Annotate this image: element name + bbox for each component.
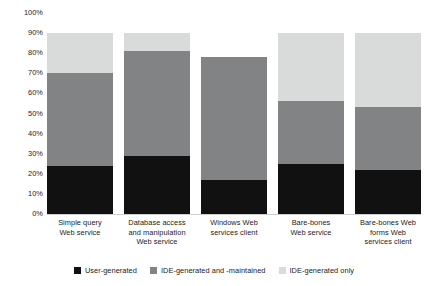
y-axis-tick: 60% bbox=[28, 89, 43, 97]
legend-swatch-icon bbox=[150, 267, 157, 274]
bar-segment-ide-generated-and-maintained bbox=[124, 51, 190, 156]
x-axis-label-line: Web service bbox=[42, 228, 118, 238]
x-axis-label: Windows Web services client bbox=[196, 218, 272, 262]
y-axis-tick: 70% bbox=[28, 69, 43, 77]
x-axis-label-line: Web service bbox=[273, 228, 349, 238]
x-axis-label-line: Bare-bones bbox=[273, 218, 349, 228]
bar-segment-ide-generated-only bbox=[278, 33, 344, 101]
x-axis-label-line: Bare-bones Web bbox=[350, 218, 426, 228]
legend-item-ide-generated-only: IDE-generated only bbox=[279, 266, 355, 275]
legend-label: IDE-generated only bbox=[290, 266, 355, 275]
x-axis-label-line: Windows Web bbox=[196, 218, 272, 228]
bar-segment-ide-generated-only bbox=[47, 33, 113, 73]
bar-group bbox=[47, 13, 421, 214]
y-axis-tick: 90% bbox=[28, 29, 43, 37]
x-axis-label-line: services client bbox=[350, 237, 426, 247]
x-axis-label: Simple query Web service bbox=[42, 218, 118, 262]
x-axis-line bbox=[47, 214, 421, 215]
y-axis-tick: 0% bbox=[32, 210, 43, 218]
y-axis-tick: 10% bbox=[28, 190, 43, 198]
bar-segment-user-generated bbox=[47, 166, 113, 214]
bar-segment-ide-generated-and-maintained bbox=[47, 73, 113, 165]
x-axis-label-line: Simple query bbox=[42, 218, 118, 228]
bar-segment-ide-generated-and-maintained bbox=[278, 101, 344, 163]
y-axis-tick: 80% bbox=[28, 49, 43, 57]
bar-bare-bones-web-forms-web-services-client bbox=[355, 13, 421, 214]
x-axis-label-line: forms Web bbox=[350, 228, 426, 238]
y-axis-tick: 100% bbox=[24, 9, 43, 17]
legend-swatch-icon bbox=[74, 267, 81, 274]
stacked-bar-chart: 100% 90% 80% 70% 60% 50% 40% 30% 20% 10%… bbox=[0, 0, 428, 286]
x-axis-label-line: services client bbox=[196, 228, 272, 238]
bar-segment-user-generated bbox=[278, 164, 344, 214]
y-axis: 100% 90% 80% 70% 60% 50% 40% 30% 20% 10%… bbox=[0, 0, 47, 214]
y-axis-tick: 20% bbox=[28, 170, 43, 178]
chart-legend: User-generated IDE-generated and -mainta… bbox=[0, 266, 428, 275]
x-axis-label-line: Database access bbox=[119, 218, 195, 228]
bar-bare-bones-web-service bbox=[278, 13, 344, 214]
x-axis-label: Database access and manipulation Web ser… bbox=[119, 218, 195, 262]
bar-segment-ide-generated-and-maintained bbox=[201, 57, 267, 180]
y-axis-tick: 50% bbox=[28, 110, 43, 118]
bar-segment-user-generated bbox=[355, 170, 421, 214]
bar-simple-query-web-service bbox=[47, 13, 113, 214]
bar-windows-web-services-client bbox=[201, 13, 267, 214]
y-axis-tick: 30% bbox=[28, 150, 43, 158]
legend-item-user-generated: User-generated bbox=[74, 266, 137, 275]
x-axis-label-line: and manipulation bbox=[119, 228, 195, 238]
legend-swatch-icon bbox=[279, 267, 286, 274]
bar-segment-user-generated bbox=[201, 180, 267, 214]
x-axis-labels: Simple query Web service Database access… bbox=[47, 218, 421, 262]
bar-segment-ide-generated-and-maintained bbox=[355, 107, 421, 169]
bar-segment-ide-generated-only bbox=[124, 33, 190, 51]
y-axis-tick: 40% bbox=[28, 130, 43, 138]
x-axis-label: Bare-bones Web forms Web services client bbox=[350, 218, 426, 262]
legend-item-ide-generated-and-maintained: IDE-generated and -maintained bbox=[150, 266, 266, 275]
x-axis-label: Bare-bones Web service bbox=[273, 218, 349, 262]
bar-segment-ide-generated-only bbox=[355, 33, 421, 107]
plot-area bbox=[47, 13, 421, 214]
legend-label: User-generated bbox=[85, 266, 137, 275]
bar-segment-user-generated bbox=[124, 156, 190, 214]
legend-label: IDE-generated and -maintained bbox=[161, 266, 266, 275]
x-axis-label-line: Web service bbox=[119, 237, 195, 247]
bar-database-access-and-manipulation-web-service bbox=[124, 13, 190, 214]
